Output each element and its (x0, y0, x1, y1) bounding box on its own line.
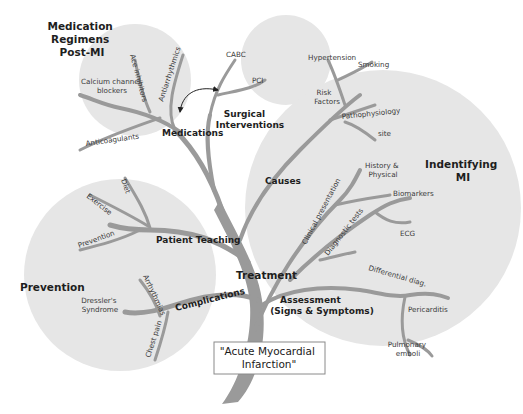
pci-label: PCI (252, 76, 263, 85)
smoking-label: Smoking (358, 60, 389, 69)
prevention-heading: Prevention (20, 281, 85, 293)
cabc-label: CABC (226, 50, 246, 59)
pulmonary-emboli-label: Pulmonary emboli (388, 340, 429, 358)
hypertension-label: Hypertension (308, 53, 356, 62)
history-physical-label: History & Physical (365, 161, 401, 179)
treatment-node: Treatment (236, 269, 297, 281)
medications-node: Medications (162, 128, 223, 138)
patient-teaching-node: Patient Teaching (156, 235, 241, 245)
biomarkers-label: Biomarkers (393, 189, 434, 198)
pericarditis-label: Pericarditis (408, 305, 448, 314)
site-label: site (378, 129, 392, 138)
concept-map-diagram: Medication Regimens Post-MI Calcium chan… (0, 0, 523, 414)
ecg-label: ECG (400, 229, 415, 238)
causes-node: Causes (265, 176, 301, 186)
surgical-node: Surgical Interventions (216, 109, 284, 130)
dresslers-label: Dressler's Syndrome (81, 296, 119, 314)
cluster-circles (24, 15, 521, 371)
prevention-circle (24, 179, 216, 371)
